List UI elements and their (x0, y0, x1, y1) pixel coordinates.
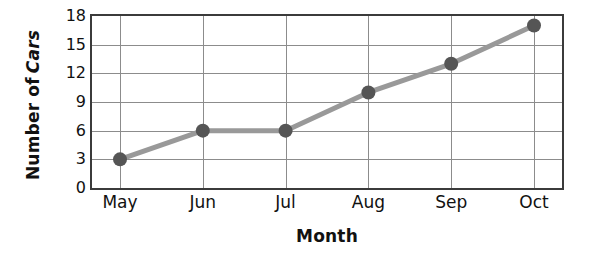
x-axis-tick-labels: MayJunJulAugSepOct (90, 192, 564, 222)
data-point-marker (361, 85, 375, 99)
y-axis-tick-label: 3 (76, 151, 86, 167)
line-series (92, 16, 562, 188)
x-axis-title: Month (90, 226, 564, 246)
x-axis-tick-label: Oct (519, 192, 548, 212)
y-axis-title-text: Number of (23, 77, 43, 180)
y-axis-tick-labels: 0369121518 (46, 14, 86, 190)
y-axis-tick-label: 12 (66, 65, 86, 81)
y-axis-tick-label: 0 (76, 180, 86, 196)
x-axis-tick-label: Sep (435, 192, 467, 212)
data-point-marker (196, 124, 210, 138)
y-axis-tick-label: 9 (76, 94, 86, 110)
x-axis-tick-label: May (102, 192, 137, 212)
series-line (120, 26, 534, 160)
x-axis-tick-label: Aug (352, 192, 385, 212)
y-axis-tick-label: 6 (76, 123, 86, 139)
y-axis-title-emphasis: Cars (23, 30, 43, 77)
data-point-marker (527, 19, 541, 33)
data-point-marker (444, 57, 458, 71)
x-axis-tick-label: Jun (190, 192, 217, 212)
plot-area (90, 14, 564, 190)
y-axis-tick-label: 18 (66, 8, 86, 24)
series-layer (92, 16, 562, 188)
data-point-marker (279, 124, 293, 138)
data-point-marker (113, 152, 127, 166)
y-axis-tick-label: 15 (66, 37, 86, 53)
line-chart: Number of Cars 0369121518 MayJunJulAugSe… (0, 0, 608, 269)
x-axis-tick-label: Jul (275, 192, 296, 212)
